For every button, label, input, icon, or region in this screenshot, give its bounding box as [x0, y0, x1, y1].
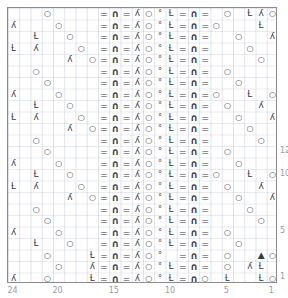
purl-cell[interactable]: =	[177, 31, 188, 43]
yarn-over-cell[interactable]: ○	[53, 227, 64, 239]
k2tog-cell[interactable]: ʎ	[132, 100, 143, 112]
bind-arch-cell[interactable]: ∩	[109, 112, 120, 124]
yarn-over-cell[interactable]: ○	[143, 158, 154, 170]
k2tog-cell[interactable]: ʎ	[132, 54, 143, 66]
yarn-over-cell[interactable]: ○	[211, 89, 222, 101]
k2tog-cell[interactable]: ʎ	[256, 8, 267, 20]
bind-arch-cell[interactable]: ∩	[188, 89, 199, 101]
yarn-over-cell[interactable]: ○	[143, 273, 154, 284]
bind-arch-cell[interactable]: ∩	[188, 250, 199, 262]
bind-arch-cell[interactable]: ∩	[188, 273, 199, 284]
ssk-cell[interactable]: Ɫ	[166, 227, 177, 239]
yarn-over-cell[interactable]: ○	[143, 100, 154, 112]
ssk-cell[interactable]: Ɫ	[166, 146, 177, 158]
purl-cell[interactable]: =	[98, 250, 109, 262]
dot-cell[interactable]: °	[154, 54, 165, 66]
bind-arch-cell[interactable]: ∩	[109, 54, 120, 66]
k2tog-cell[interactable]: ʎ	[8, 89, 19, 101]
purl-cell[interactable]: =	[177, 204, 188, 216]
k2tog-cell[interactable]: ʎ	[132, 146, 143, 158]
yarn-over-cell[interactable]: ○	[267, 273, 277, 284]
yarn-over-cell[interactable]: ○	[143, 77, 154, 89]
purl-cell[interactable]: =	[121, 123, 132, 135]
purl-cell[interactable]: =	[98, 227, 109, 239]
yarn-over-cell[interactable]: ○	[267, 8, 277, 20]
yarn-over-cell[interactable]: ○	[42, 8, 53, 20]
bind-arch-cell[interactable]: ∩	[109, 250, 120, 262]
yarn-over-cell[interactable]: ○	[143, 169, 154, 181]
dot-cell[interactable]: °	[154, 146, 165, 158]
bind-arch-cell[interactable]: ∩	[188, 158, 199, 170]
yarn-over-cell[interactable]: ○	[42, 273, 53, 284]
dot-cell[interactable]: °	[154, 89, 165, 101]
k2tog-cell[interactable]: ʎ	[31, 181, 42, 193]
yarn-over-cell[interactable]: ○	[199, 273, 210, 284]
purl-cell[interactable]: =	[177, 250, 188, 262]
purl-cell[interactable]: =	[98, 158, 109, 170]
purl-cell[interactable]: =	[199, 112, 210, 124]
ssk-cell[interactable]: Ɫ	[244, 169, 255, 181]
yarn-over-cell[interactable]: ○	[233, 31, 244, 43]
k2tog-cell[interactable]: ʎ	[132, 77, 143, 89]
dot-cell[interactable]: °	[154, 8, 165, 20]
purl-cell[interactable]: =	[121, 54, 132, 66]
yarn-over-cell[interactable]: ○	[222, 100, 233, 112]
ssk-cell[interactable]: Ɫ	[166, 66, 177, 78]
purl-cell[interactable]: =	[199, 204, 210, 216]
purl-cell[interactable]: =	[98, 89, 109, 101]
yarn-over-cell[interactable]: ○	[222, 227, 233, 239]
bind-arch-cell[interactable]: ∩	[188, 261, 199, 273]
bind-arch-cell[interactable]: ∩	[188, 204, 199, 216]
k2tog-cell[interactable]: ʎ	[132, 123, 143, 135]
yarn-over-cell[interactable]: ○	[53, 20, 64, 32]
purl-cell[interactable]: =	[177, 66, 188, 78]
purl-cell[interactable]: =	[177, 158, 188, 170]
bind-arch-cell[interactable]: ∩	[109, 204, 120, 216]
ssk-cell[interactable]: Ɫ	[166, 89, 177, 101]
purl-cell[interactable]: =	[98, 146, 109, 158]
k2tog-cell[interactable]: ʎ	[132, 43, 143, 55]
purl-cell[interactable]: =	[121, 20, 132, 32]
yarn-over-cell[interactable]: ○	[87, 123, 98, 135]
purl-cell[interactable]: =	[121, 169, 132, 181]
dot-cell[interactable]: °	[154, 227, 165, 239]
yarn-over-cell[interactable]: ○	[143, 43, 154, 55]
purl-cell[interactable]: =	[121, 66, 132, 78]
yarn-over-cell[interactable]: ○	[143, 66, 154, 78]
ssk-cell[interactable]: Ɫ	[166, 135, 177, 147]
yarn-over-cell[interactable]: ○	[256, 135, 267, 147]
yarn-over-cell[interactable]: ○	[42, 250, 53, 262]
ssk-cell[interactable]: Ɫ	[87, 250, 98, 262]
purl-cell[interactable]: =	[177, 215, 188, 227]
purl-cell[interactable]: =	[121, 181, 132, 193]
ssk-cell[interactable]: Ɫ	[166, 158, 177, 170]
purl-cell[interactable]: =	[177, 77, 188, 89]
bind-arch-cell[interactable]: ∩	[109, 100, 120, 112]
yarn-over-cell[interactable]: ○	[222, 146, 233, 158]
bind-arch-cell[interactable]: ∩	[188, 31, 199, 43]
bind-arch-cell[interactable]: ∩	[188, 43, 199, 55]
ssk-cell[interactable]: Ɫ	[166, 100, 177, 112]
ssk-cell[interactable]: Ɫ	[31, 238, 42, 250]
yarn-over-cell[interactable]: ○	[76, 181, 87, 193]
ssk-cell[interactable]: Ɫ	[8, 43, 19, 55]
bind-arch-cell[interactable]: ∩	[109, 135, 120, 147]
ssk-cell[interactable]: Ɫ	[87, 273, 98, 284]
bind-arch-cell[interactable]: ∩	[109, 43, 120, 55]
purl-cell[interactable]: =	[98, 238, 109, 250]
dot-cell[interactable]: °	[154, 31, 165, 43]
purl-cell[interactable]: =	[199, 20, 210, 32]
purl-cell[interactable]: =	[199, 135, 210, 147]
purl-cell[interactable]: =	[121, 192, 132, 204]
k2tog-cell[interactable]: ʎ	[256, 181, 267, 193]
purl-cell[interactable]: =	[199, 77, 210, 89]
ssk-cell[interactable]: Ɫ	[166, 192, 177, 204]
bind-arch-cell[interactable]: ∩	[188, 54, 199, 66]
yarn-over-cell[interactable]: ○	[76, 43, 87, 55]
k2tog-cell[interactable]: ʎ	[132, 215, 143, 227]
purl-cell[interactable]: =	[121, 135, 132, 147]
yarn-over-cell[interactable]: ○	[143, 31, 154, 43]
purl-cell[interactable]: =	[199, 31, 210, 43]
k2tog-cell[interactable]: ʎ	[8, 227, 19, 239]
dot-cell[interactable]: °	[154, 112, 165, 124]
